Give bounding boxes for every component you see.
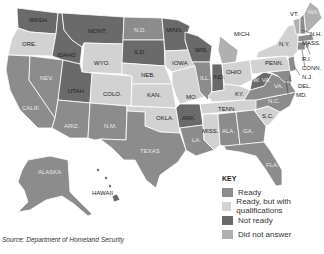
- label-okla: OKLA.: [156, 115, 174, 121]
- label-hawaii: HAWAII: [92, 190, 113, 196]
- label-kan: KAN.: [147, 92, 161, 98]
- label-iowa: IOWA: [172, 60, 188, 66]
- label-calif: CALIF.: [22, 105, 40, 111]
- label-nj: N.J.: [302, 74, 313, 80]
- legend-swatch-not-ready: [222, 216, 233, 225]
- label-ri: R.I.: [302, 56, 312, 62]
- label-texas: TEXAS: [140, 148, 160, 154]
- legend-item-not-ready: Not ready: [222, 213, 324, 227]
- legend-label: Not ready: [238, 216, 273, 225]
- label-del: DEL.: [298, 83, 312, 89]
- label-fla: FLA.: [266, 162, 279, 168]
- label-md: MD.: [296, 92, 307, 98]
- label-mass: MASS.: [302, 40, 321, 46]
- label-ga: GA.: [243, 128, 254, 134]
- label-mont: MONT.: [88, 28, 107, 34]
- label-ky: KY.: [235, 91, 244, 97]
- state-me: [304, 2, 322, 34]
- label-me: MA.: [308, 9, 319, 15]
- state-alaska: [18, 156, 92, 216]
- label-nd: N.D.: [134, 27, 146, 33]
- state-ariz: [52, 100, 90, 138]
- label-ind: IND.: [213, 74, 225, 80]
- label-ohio: OHIO: [226, 69, 242, 75]
- label-wva: W. VA.: [253, 77, 271, 83]
- label-nh: N.H.: [310, 31, 322, 37]
- state-nm: [88, 103, 127, 140]
- label-idaho: IDAHO: [57, 52, 76, 58]
- label-sd: S.D.: [134, 49, 146, 55]
- label-la: LA.: [192, 137, 201, 143]
- label-alaska: ALASKA: [38, 169, 61, 175]
- label-conn: CONN.: [302, 65, 322, 71]
- legend-label: Did not answer: [238, 230, 291, 239]
- hawaii-island: [97, 169, 99, 171]
- state-mich: [218, 36, 238, 64]
- legend-item-ready-qualified: Ready, but with qualifications: [222, 199, 324, 213]
- map-legend: KEY Ready Ready, but with qualifications…: [222, 175, 324, 241]
- label-vt: VT.: [290, 11, 299, 17]
- legend-label: Ready: [238, 188, 261, 197]
- label-sc: S.C.: [262, 113, 274, 119]
- state-colo: [90, 73, 132, 106]
- legend-label: Ready, but with qualifications: [236, 197, 324, 215]
- label-wash: WASH.: [29, 17, 49, 23]
- label-mo: MO.: [186, 94, 198, 100]
- state-ny: [256, 24, 300, 58]
- legend-swatch-did-not-answer: [222, 230, 233, 239]
- label-ny: N.Y.: [279, 41, 290, 47]
- label-nc: N.C.: [268, 98, 280, 104]
- legend-item-did-not-answer: Did not answer: [222, 227, 324, 241]
- hawaii-island: [105, 177, 107, 179]
- label-penn: PENN.: [265, 60, 284, 66]
- legend-swatch-ready: [222, 188, 233, 197]
- label-ala: ALA.: [222, 128, 235, 134]
- label-ark: ARK.: [182, 115, 196, 121]
- label-colo: COLO.: [103, 91, 122, 97]
- source-note: Source: Department of Homeland Security: [2, 236, 124, 243]
- label-tenn: TENN.: [218, 106, 236, 112]
- state-hawaii: [112, 194, 120, 202]
- label-wyo: WYO.: [94, 60, 110, 66]
- label-utah: UTAH: [68, 88, 84, 94]
- legend-title: KEY: [222, 175, 324, 182]
- label-wis: WIS.: [195, 47, 208, 53]
- hawaii-island: [109, 185, 111, 187]
- label-ill: ILL.: [200, 75, 210, 81]
- label-minn: MINN.: [166, 27, 183, 33]
- label-va: VA.: [274, 83, 284, 89]
- label-nm: N.M.: [104, 123, 117, 129]
- label-miss: MISS.: [202, 128, 219, 134]
- label-neb: NEB.: [141, 72, 155, 78]
- label-nev: NEV.: [40, 75, 54, 81]
- legend-swatch-ready-qualified: [222, 202, 231, 211]
- label-ore: ORE.: [22, 41, 37, 47]
- label-ariz: ARIZ.: [64, 123, 80, 129]
- label-mich: MICH.: [234, 31, 251, 37]
- state-wyo: [82, 43, 123, 74]
